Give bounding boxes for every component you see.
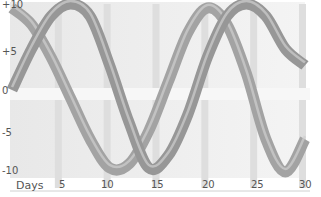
y-tick-label: +10 (2, 0, 23, 10)
x-tick-label: 5 (59, 180, 65, 190)
x-tick-label: 20 (202, 180, 215, 190)
x-tick-label: 30 (299, 180, 312, 190)
y-tick-label: +5 (2, 47, 17, 57)
y-tick-label: 0 (2, 86, 8, 96)
x-tick-label: 25 (251, 180, 264, 190)
x-axis-label: Days (16, 180, 43, 191)
x-tick-label: 10 (101, 180, 114, 190)
y-tick-label: -10 (2, 166, 18, 176)
x-tick-label: 15 (151, 180, 164, 190)
ribbon-chart (0, 0, 321, 197)
y-tick-label: -5 (2, 128, 12, 138)
